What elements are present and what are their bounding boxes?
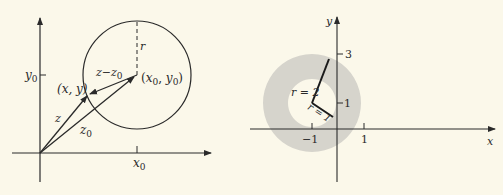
right-figure: −1 1 1 3 x y r = 2 r = 1	[250, 15, 495, 182]
tick-label-y-3: 3	[345, 48, 352, 61]
y0-label: y0	[24, 68, 38, 84]
inner-radius-label: r = 1	[306, 101, 334, 124]
z-label: z	[54, 112, 61, 125]
x0-label: x0	[133, 156, 146, 172]
center-label: (x0, y0)	[141, 71, 183, 87]
right-x-axis-label: x	[487, 135, 494, 148]
right-y-axis-label: y	[325, 15, 333, 28]
difference-label: z−z0	[95, 66, 123, 81]
left-figure: y0 x0 r z−z0 (x0, y0) (x, y) z z0	[12, 18, 211, 182]
z0-label: z0	[79, 123, 92, 139]
point-label: (x, y)	[57, 82, 88, 96]
tick-label-y-1: 1	[344, 97, 351, 110]
outer-radius-label: r = 2	[291, 86, 319, 99]
radius-label: r	[140, 40, 146, 53]
figure-canvas: y0 x0 r z−z0 (x0, y0) (x, y) z z0 −1 1 1…	[0, 0, 503, 195]
tick-label-x-1: 1	[361, 133, 368, 146]
tick-label-x-neg1: −1	[302, 133, 318, 146]
